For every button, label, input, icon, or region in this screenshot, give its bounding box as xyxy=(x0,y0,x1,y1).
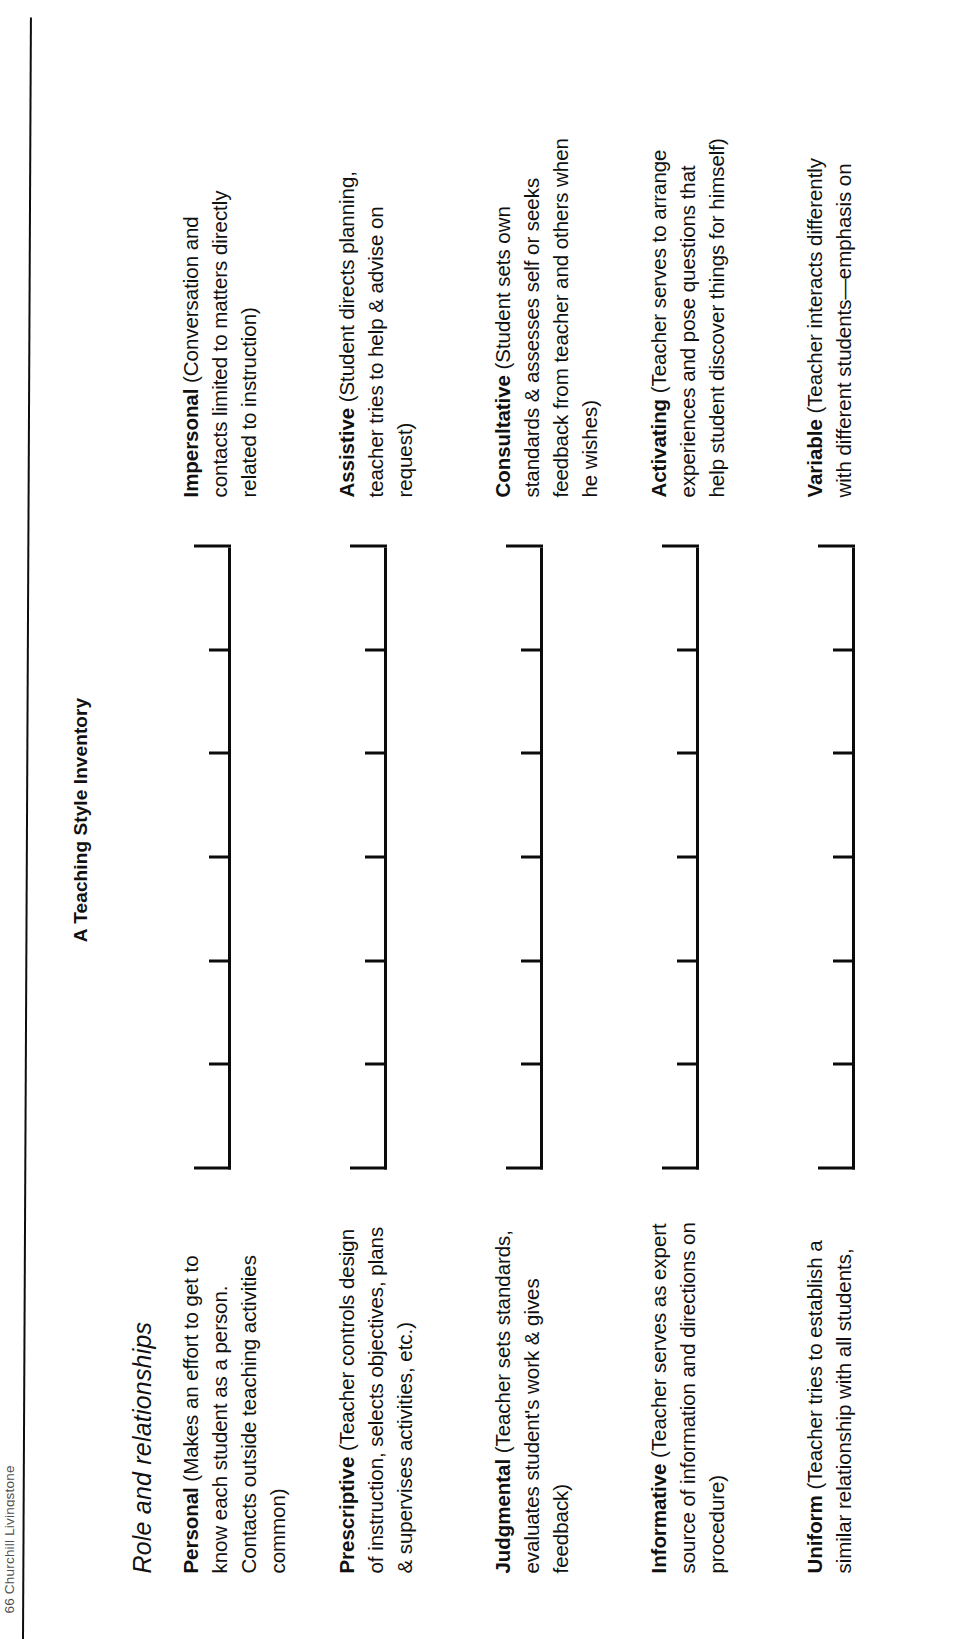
page-title: A Teaching Style Inventory xyxy=(70,0,92,1639)
pole-left: Uniform (Teacher tries to establish a si… xyxy=(800,1213,858,1573)
pole-right: Variable (Teacher interacts differently … xyxy=(800,137,858,497)
scale-tick[interactable] xyxy=(521,1062,543,1065)
pole-right: Activating (Teacher serves to arrange ex… xyxy=(644,137,731,497)
inventory-row: Judgmental (Teacher sets standards, eval… xyxy=(488,0,644,1639)
scale-tick[interactable] xyxy=(521,648,543,651)
rating-scale[interactable] xyxy=(350,547,396,1169)
scale-tick[interactable] xyxy=(833,855,855,858)
pole-term: Uniform xyxy=(803,1495,826,1573)
page-viewport: 66 Churchill Livingstone A Teaching Styl… xyxy=(0,0,962,1639)
scale-tick[interactable] xyxy=(833,1062,855,1065)
scale-tick[interactable] xyxy=(677,648,699,651)
scale-tick[interactable] xyxy=(677,751,699,754)
pole-right: Consultative (Student sets own standards… xyxy=(488,137,604,497)
scale-tick[interactable] xyxy=(365,959,387,962)
scale-tick[interactable] xyxy=(521,751,543,754)
inventory-row: Personal (Makes an effort to get to know… xyxy=(176,0,332,1639)
pole-term: Consultative xyxy=(491,375,514,497)
scale-tick[interactable] xyxy=(209,751,231,754)
header-rule xyxy=(22,17,32,1639)
pole-term: Activating xyxy=(647,398,670,497)
pole-term: Prescriptive xyxy=(335,1456,358,1573)
scale-end-cap[interactable] xyxy=(662,1166,699,1169)
section-heading: Role and relationships xyxy=(128,1321,157,1573)
scale-tick[interactable] xyxy=(521,959,543,962)
scale-end-cap[interactable] xyxy=(194,1166,231,1169)
scanned-page: 66 Churchill Livingstone A Teaching Styl… xyxy=(0,0,962,1639)
scale-end-cap[interactable] xyxy=(818,1166,855,1169)
scale-tick[interactable] xyxy=(365,1062,387,1065)
pole-left: Personal (Makes an effort to get to know… xyxy=(176,1213,292,1573)
scale-tick[interactable] xyxy=(677,855,699,858)
pole-left: Judgmental (Teacher sets standards, eval… xyxy=(488,1213,575,1573)
scale-end-cap[interactable] xyxy=(350,544,387,547)
scale-tick[interactable] xyxy=(209,855,231,858)
rating-scale[interactable] xyxy=(506,547,552,1169)
scale-tick[interactable] xyxy=(833,648,855,651)
scale-end-cap[interactable] xyxy=(818,544,855,547)
pole-term: Judgmental xyxy=(491,1458,514,1573)
inventory-rows: Personal (Makes an effort to get to know… xyxy=(176,0,956,1639)
pole-term: Variable xyxy=(803,419,826,497)
scale-end-cap[interactable] xyxy=(350,1166,387,1169)
inventory-row: Uniform (Teacher tries to establish a si… xyxy=(800,0,956,1639)
pole-term: Personal xyxy=(179,1487,202,1573)
scale-tick[interactable] xyxy=(209,1062,231,1065)
scale-tick[interactable] xyxy=(209,648,231,651)
pole-term: Informative xyxy=(647,1463,670,1573)
pole-term: Assistive xyxy=(335,407,358,497)
scale-tick[interactable] xyxy=(365,648,387,651)
scale-tick[interactable] xyxy=(677,1062,699,1065)
scale-tick[interactable] xyxy=(365,751,387,754)
running-head: 66 Churchill Livingstone xyxy=(2,1093,15,1613)
scale-tick[interactable] xyxy=(521,855,543,858)
scale-tick[interactable] xyxy=(365,855,387,858)
rating-scale[interactable] xyxy=(662,547,708,1169)
pole-term: Impersonal xyxy=(179,388,202,497)
pole-left: Informative (Teacher serves as expert so… xyxy=(644,1213,731,1573)
rating-scale[interactable] xyxy=(818,547,864,1169)
pole-right: Impersonal (Conversation and contacts li… xyxy=(176,137,263,497)
scale-tick[interactable] xyxy=(677,959,699,962)
scale-end-cap[interactable] xyxy=(662,544,699,547)
scale-end-cap[interactable] xyxy=(194,544,231,547)
scale-end-cap[interactable] xyxy=(506,1166,543,1169)
scale-end-cap[interactable] xyxy=(506,544,543,547)
rating-scale[interactable] xyxy=(194,547,240,1169)
pole-right: Assistive (Student directs planning, tea… xyxy=(332,137,419,497)
scale-tick[interactable] xyxy=(833,959,855,962)
pole-left: Prescriptive (Teacher controls design of… xyxy=(332,1213,419,1573)
scale-tick[interactable] xyxy=(209,959,231,962)
inventory-row: Prescriptive (Teacher controls design of… xyxy=(332,0,488,1639)
inventory-row: Informative (Teacher serves as expert so… xyxy=(644,0,800,1639)
scale-tick[interactable] xyxy=(833,751,855,754)
